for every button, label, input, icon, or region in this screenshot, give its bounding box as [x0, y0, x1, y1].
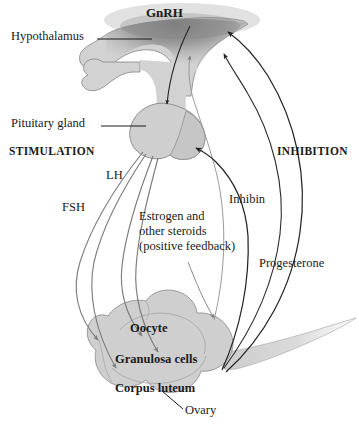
hypothalamus-label: Hypothalamus — [11, 29, 84, 44]
lh-label: LH — [106, 168, 123, 183]
optic-chiasm-lobes — [82, 59, 140, 91]
estrogen-line-1: Estrogen and — [139, 209, 205, 224]
estrogen-negative-feedback-arrow — [224, 54, 281, 368]
progesterone-label: Progesterone — [259, 256, 324, 271]
inhibition-heading: INHIBITION — [277, 145, 348, 159]
anatomy-layer — [80, 3, 356, 392]
corpus-luteum-label: Corpus luteum — [115, 381, 195, 396]
hpo-axis-diagram: GnRH Hypothalamus Pituitary gland STIMUL… — [0, 0, 359, 428]
oocyte-label: Oocyte — [130, 321, 167, 336]
granulosa-cells-label: Granulosa cells — [115, 352, 197, 367]
fsh-label: FSH — [62, 200, 85, 215]
ovary-tail — [222, 318, 356, 370]
estrogen-line-3: (positive feedback) — [139, 239, 235, 254]
estrogen-positive-feedback-arrow — [189, 56, 224, 320]
inhibin-label: Inhibin — [229, 192, 265, 207]
ovary-label: Ovary — [185, 403, 216, 418]
stimulation-heading: STIMULATION — [9, 145, 95, 159]
pituitary-gland-label: Pituitary gland — [11, 116, 85, 131]
gnrh-label: GnRH — [146, 5, 183, 20]
estrogen-line-2: other steroids — [139, 224, 207, 239]
